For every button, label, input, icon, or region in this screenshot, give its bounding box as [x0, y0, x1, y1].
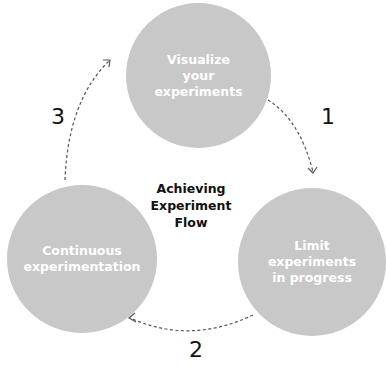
- step-label-2: 2: [189, 337, 203, 362]
- arrow-3-path: [65, 60, 110, 180]
- node-left-line-1: Continuous: [24, 243, 141, 259]
- node-right-line-3: in progress: [268, 270, 356, 286]
- node-top-line-1: Visualize: [154, 52, 242, 68]
- node-right-line-1: Limit: [268, 238, 356, 254]
- diagram-title: Achieving Experiment Flow: [135, 180, 247, 231]
- title-line-1: Achieving: [135, 180, 247, 197]
- node-right-line-2: experiments: [268, 254, 356, 270]
- step-label-1: 1: [321, 104, 335, 129]
- node-top-line-3: experiments: [154, 84, 242, 100]
- step-label-3: 3: [51, 104, 65, 129]
- arrow-1-path: [268, 100, 313, 172]
- arrow-2-path: [130, 315, 253, 331]
- node-visualize-experiments: Visualize your experiments: [126, 3, 271, 148]
- title-line-2: Experiment: [135, 197, 247, 214]
- node-top-line-2: your: [154, 68, 242, 84]
- title-line-3: Flow: [135, 214, 247, 231]
- node-limit-experiments: Limit experiments in progress: [238, 188, 386, 336]
- node-left-line-2: experimentation: [24, 259, 141, 275]
